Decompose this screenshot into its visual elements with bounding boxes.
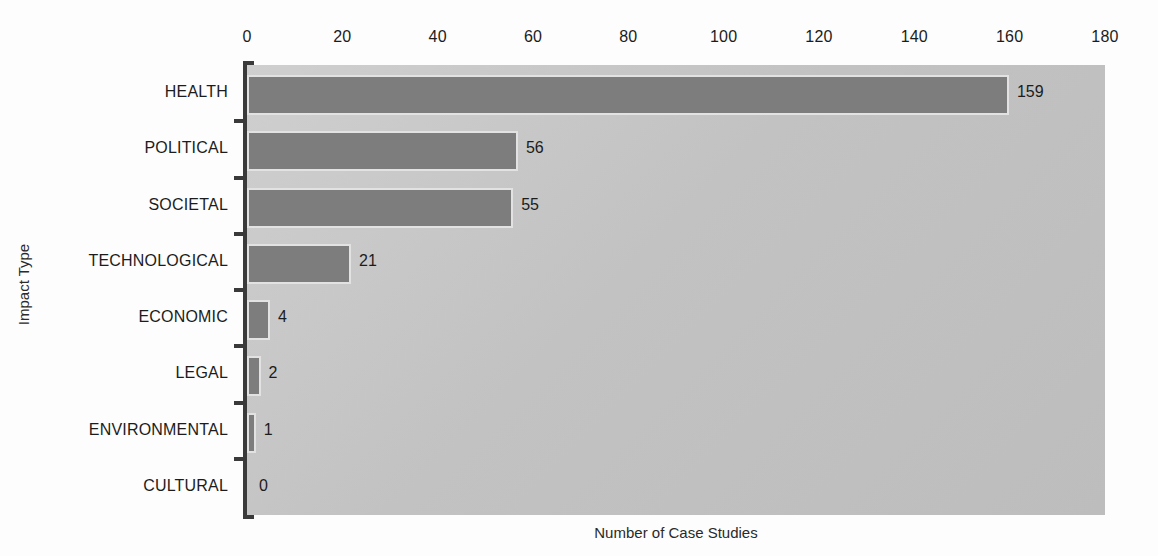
y-category-label-technological: TECHNOLOGICAL xyxy=(8,252,228,270)
y-category-label-economic: ECONOMIC xyxy=(8,308,228,326)
x-tick-label-120: 120 xyxy=(789,28,849,46)
bar-health[interactable] xyxy=(247,75,1009,115)
y-category-label-societal: SOCIETAL xyxy=(8,196,228,214)
x-tick-label-80: 80 xyxy=(598,28,658,46)
y-axis-tick-2 xyxy=(234,176,244,180)
x-tick-label-20: 20 xyxy=(312,28,372,46)
y-category-label-legal: LEGAL xyxy=(8,364,228,382)
y-category-label-health: HEALTH xyxy=(8,83,228,101)
x-tick-label-160: 160 xyxy=(980,28,1040,46)
bar-value-label-environmental: 1 xyxy=(264,421,273,439)
bar-legal[interactable] xyxy=(247,356,261,396)
y-category-label-political: POLITICAL xyxy=(8,139,228,157)
y-axis-tick-3 xyxy=(234,232,244,236)
bar-political[interactable] xyxy=(247,131,518,171)
bar-societal[interactable] xyxy=(247,188,513,228)
bar-value-label-technological: 21 xyxy=(359,252,377,270)
bar-economic[interactable] xyxy=(247,300,270,340)
y-axis-tick-1 xyxy=(234,119,244,123)
y-axis-tick-7 xyxy=(234,457,244,461)
y-axis-tick-4 xyxy=(234,288,244,292)
bar-environmental[interactable] xyxy=(247,413,256,453)
y-category-label-cultural: CULTURAL xyxy=(8,477,228,495)
y-axis-category-labels: HEALTHPOLITICALSOCIETALTECHNOLOGICALECON… xyxy=(0,0,228,556)
y-axis-cap-bottom xyxy=(243,515,254,519)
y-axis-title: Impact Type xyxy=(15,225,32,345)
bar-value-label-societal: 55 xyxy=(521,196,539,214)
x-tick-label-100: 100 xyxy=(694,28,754,46)
x-tick-label-180: 180 xyxy=(1075,28,1135,46)
bar-technological[interactable] xyxy=(247,244,351,284)
y-axis-cap-top xyxy=(243,61,254,65)
y-axis-tick-6 xyxy=(234,401,244,405)
y-axis-tick-5 xyxy=(234,344,244,348)
bar-value-label-cultural: 0 xyxy=(259,477,268,495)
x-axis-title: Number of Case Studies xyxy=(247,524,1105,541)
x-tick-label-140: 140 xyxy=(884,28,944,46)
bar-value-label-health: 159 xyxy=(1017,83,1044,101)
y-category-label-environmental: ENVIRONMENTAL xyxy=(8,421,228,439)
x-tick-label-40: 40 xyxy=(408,28,468,46)
bar-value-label-political: 56 xyxy=(526,139,544,157)
bar-value-label-legal: 2 xyxy=(269,364,278,382)
chart-figure: 020406080100120140160180 HEALTHPOLITICAL… xyxy=(0,0,1158,556)
bar-value-label-economic: 4 xyxy=(278,308,287,326)
x-tick-label-60: 60 xyxy=(503,28,563,46)
